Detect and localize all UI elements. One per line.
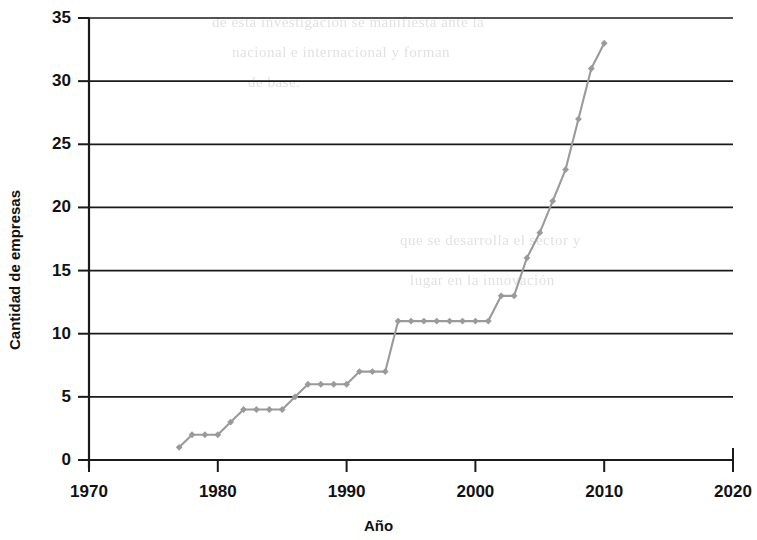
data-line (179, 43, 604, 447)
x-tick-label: 1980 (183, 482, 253, 502)
data-point-marker (420, 318, 427, 325)
data-point-marker (433, 318, 440, 325)
data-point-marker (382, 368, 389, 375)
x-tick-label: 2000 (440, 482, 510, 502)
data-point-marker (395, 318, 402, 325)
y-tick-label: 0 (37, 450, 71, 470)
y-tick-label: 25 (37, 134, 71, 154)
y-tick-label: 35 (37, 8, 71, 28)
data-point-marker (408, 318, 415, 325)
y-tick-label: 30 (37, 71, 71, 91)
data-point-marker (459, 318, 466, 325)
data-point-marker (575, 116, 582, 123)
data-point-marker (472, 318, 479, 325)
y-tick-label: 5 (37, 387, 71, 407)
y-tick-label: 20 (37, 197, 71, 217)
data-point-marker (266, 406, 273, 413)
data-point-marker (253, 406, 260, 413)
y-axis-title: Cantidad de empresas (2, 110, 26, 430)
x-tick-label: 2020 (698, 482, 757, 502)
data-point-marker (511, 292, 518, 299)
y-axis-title-text: Cantidad de empresas (6, 190, 23, 350)
y-axis-ticks (78, 18, 89, 460)
gridlines (89, 18, 733, 460)
data-point-marker (446, 318, 453, 325)
x-tick-label: 1990 (312, 482, 382, 502)
data-point-marker (369, 368, 376, 375)
data-point-marker (330, 381, 337, 388)
data-point-marker (202, 431, 209, 438)
chart-figure: de esta investigación se manifiesta ante… (0, 0, 757, 540)
data-point-markers (176, 40, 608, 451)
x-tick-label: 2010 (569, 482, 639, 502)
data-point-marker (549, 198, 556, 205)
y-tick-label: 10 (37, 324, 71, 344)
plot-canvas (0, 0, 757, 540)
x-tick-label: 1970 (54, 482, 124, 502)
data-point-marker (562, 166, 569, 173)
x-axis-ticks (89, 460, 733, 472)
y-tick-label: 15 (37, 261, 71, 281)
x-axis-title: Año (0, 517, 757, 534)
data-point-marker (317, 381, 324, 388)
